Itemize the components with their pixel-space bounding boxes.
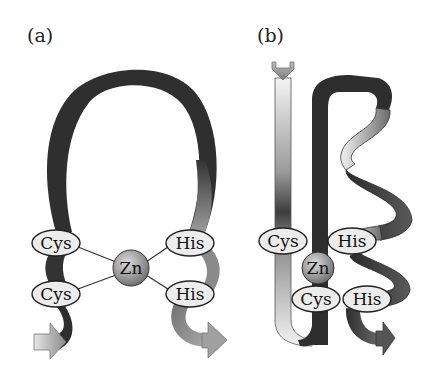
svg-text:His: His (176, 284, 205, 304)
panel-a-label: (a) (27, 24, 53, 46)
residue-his-top-b: His (328, 228, 376, 254)
arrow-in-a (34, 323, 66, 359)
svg-text:His: His (176, 233, 205, 253)
zinc-ion-a: Zn (113, 250, 149, 286)
svg-text:Zn: Zn (307, 258, 330, 278)
svg-text:His: His (353, 289, 382, 309)
residue-his-top-a: His (166, 230, 214, 256)
residue-cys-top-a: Cys (32, 230, 80, 256)
svg-text:Zn: Zn (120, 258, 143, 278)
svg-text:His: His (338, 231, 367, 251)
panel-b: (b) Cys His Zn (257, 24, 412, 355)
residue-his-bottom-a: His (166, 281, 214, 307)
residue-his-bottom-b: His (343, 286, 391, 312)
residue-cys-bottom-b: Cys (292, 286, 340, 312)
svg-text:Cys: Cys (300, 289, 331, 309)
zinc-ion-b: Zn (302, 252, 334, 284)
residue-cys-top-b: Cys (259, 228, 307, 254)
ribbon-loop-a (47, 70, 217, 232)
panel-b-label: (b) (257, 24, 284, 46)
svg-text:Cys: Cys (40, 284, 71, 304)
helix-turn-1-b (341, 108, 390, 170)
panel-a: (a) Cys Cys (27, 24, 227, 359)
ribbon-helix-tail-b (346, 308, 380, 345)
svg-text:Cys: Cys (40, 233, 71, 253)
arrow-out-a (202, 322, 227, 358)
arrow-in-b (272, 62, 294, 80)
arrow-out-b (376, 322, 395, 355)
residue-cys-bottom-a: Cys (32, 281, 80, 307)
svg-text:Cys: Cys (267, 231, 298, 251)
zinc-finger-diagram: (a) Cys Cys (0, 0, 438, 378)
